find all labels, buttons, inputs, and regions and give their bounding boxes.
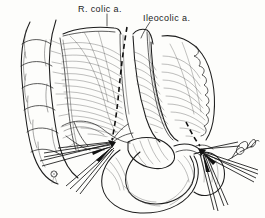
- cecum-folds: [133, 139, 168, 165]
- haustra-folds: [21, 40, 61, 156]
- right-hemostat-clamps[interactable]: [196, 142, 258, 211]
- bowel-shading: [106, 156, 194, 206]
- mesentery-free-edge: [194, 46, 209, 136]
- surgical-illustration-figure: .s{fill:none;stroke:#1d1d1d;stroke-linec…: [0, 0, 265, 218]
- mesentery-hatching-right: [162, 42, 207, 142]
- illustration-canvas: .s{fill:none;stroke:#1d1d1d;stroke-linec…: [0, 0, 265, 218]
- right-colic-division-line: [112, 27, 127, 140]
- right-colic-artery: [120, 34, 133, 138]
- label-ileocolic-artery: Ileocolic a.: [143, 13, 190, 23]
- left-hemostat-clamps[interactable]: [40, 124, 133, 194]
- ascending-colon: [21, 20, 78, 184]
- artist-signature: [228, 139, 259, 160]
- right-colic-mesentery: [51, 27, 133, 183]
- ileocolic-division-line: [186, 122, 200, 146]
- label-right-colic-artery: R. colic a.: [78, 4, 122, 14]
